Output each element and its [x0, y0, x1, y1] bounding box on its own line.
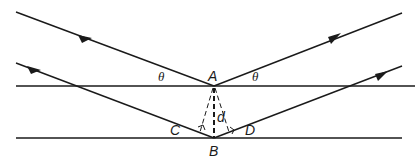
lower-reflected-arrow-icon — [375, 71, 388, 81]
point-C-label: C — [170, 122, 181, 138]
lower-reflected-ray — [214, 66, 402, 138]
bragg-diagram: θ θ A B C D d — [0, 0, 416, 161]
point-A-label: A — [207, 68, 217, 84]
point-D-label: D — [245, 122, 255, 138]
upper-reflected-ray — [214, 13, 402, 86]
theta-left-label: θ — [158, 69, 165, 84]
upper-incident-arrow-icon — [78, 35, 92, 43]
theta-right-label: θ — [252, 69, 259, 84]
upper-reflected-arrow-icon — [328, 33, 341, 44]
spacing-d-label: d — [217, 109, 226, 125]
point-B-label: B — [209, 143, 218, 159]
lower-incident-arrow-icon — [27, 66, 41, 74]
